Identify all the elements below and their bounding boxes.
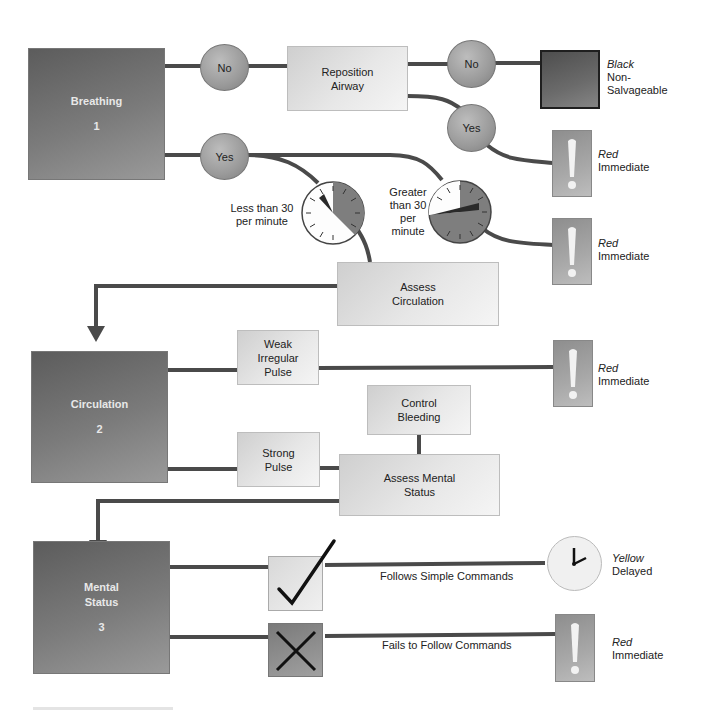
- gauge-greater-than-30-icon: [427, 179, 493, 245]
- decision-label: Yes: [216, 151, 234, 163]
- reposition-airway-box: Reposition Airway: [287, 46, 408, 111]
- stage-number: 1: [93, 119, 99, 134]
- gauge-less-than-30-icon: [300, 180, 366, 246]
- outcome-description: Immediate: [598, 161, 649, 174]
- figure-caption: [33, 707, 173, 710]
- less-than-30-label: Less than 30 per minute: [222, 202, 302, 228]
- stage-breathing: Breathing 1: [28, 48, 165, 180]
- box-label: Assess Circulation: [383, 280, 453, 308]
- cross-icon: [269, 624, 324, 678]
- assess-circulation-box: Assess Circulation: [337, 262, 499, 326]
- decision-label: No: [217, 62, 231, 74]
- decision-yes: Yes: [200, 133, 249, 180]
- outcome-description: Immediate: [598, 375, 649, 388]
- black-square-icon: [540, 50, 600, 109]
- outcome-category: Yellow: [612, 552, 652, 565]
- stage-title: Breathing: [71, 94, 122, 109]
- outcome-description: Delayed: [612, 565, 652, 578]
- stage-title: Circulation: [71, 397, 128, 412]
- decision-no: No: [200, 44, 249, 91]
- decision-label: No: [464, 58, 478, 70]
- fails-commands-label: Fails to Follow Commands: [382, 639, 512, 651]
- assess-mental-status-box: Assess Mental Status: [339, 454, 500, 516]
- clock-icon: [546, 535, 603, 592]
- stage-mental-status: Mental Status 3: [33, 541, 170, 674]
- box-label: Weak Irregular Pulse: [251, 337, 306, 379]
- exclamation-icon: [552, 218, 592, 285]
- cross-box: [268, 623, 323, 677]
- stage-number: 2: [96, 422, 102, 437]
- outcome-label: Black Non-Salvageable: [607, 58, 697, 97]
- stage-number: 3: [98, 620, 104, 635]
- stage-title: Mental Status: [72, 580, 132, 610]
- strong-pulse-box: Strong Pulse: [237, 432, 320, 487]
- box-label: Assess Mental Status: [380, 471, 460, 499]
- outcome-label: Yellow Delayed: [612, 552, 652, 578]
- exclamation-icon: [552, 130, 592, 197]
- follows-commands-label: Follows Simple Commands: [380, 570, 513, 582]
- checkmark-icon: [269, 539, 349, 609]
- box-label: Reposition Airway: [313, 65, 383, 93]
- outcome-category: Black: [607, 58, 697, 71]
- decision-label: Yes: [463, 122, 481, 134]
- outcome-category: Red: [598, 362, 649, 375]
- box-label: Strong Pulse: [254, 446, 304, 474]
- outcome-category: Red: [598, 237, 649, 250]
- decision-no: No: [447, 40, 496, 88]
- outcome-label: Red Immediate: [612, 636, 663, 662]
- stage-circulation: Circulation 2: [31, 351, 168, 483]
- outcome-label: Red Immediate: [598, 148, 649, 174]
- outcome-category: Red: [612, 636, 663, 649]
- box-label: Control Bleeding: [392, 396, 447, 424]
- exclamation-icon: [555, 614, 595, 682]
- outcome-category: Red: [598, 148, 649, 161]
- checkmark-box: [268, 556, 323, 611]
- outcome-label: Red Immediate: [598, 362, 649, 388]
- greater-than-30-label: Greater than 30 per minute: [383, 186, 433, 238]
- control-bleeding-box: Control Bleeding: [367, 385, 471, 435]
- outcome-description: Immediate: [612, 649, 663, 662]
- decision-yes: Yes: [447, 104, 496, 152]
- outcome-description: Non-Salvageable: [607, 71, 667, 97]
- exclamation-icon: [553, 340, 593, 407]
- arrow-down-icon: [87, 326, 105, 342]
- outcome-description: Immediate: [598, 250, 649, 263]
- weak-irregular-pulse-box: Weak Irregular Pulse: [237, 330, 319, 385]
- outcome-label: Red Immediate: [598, 237, 649, 263]
